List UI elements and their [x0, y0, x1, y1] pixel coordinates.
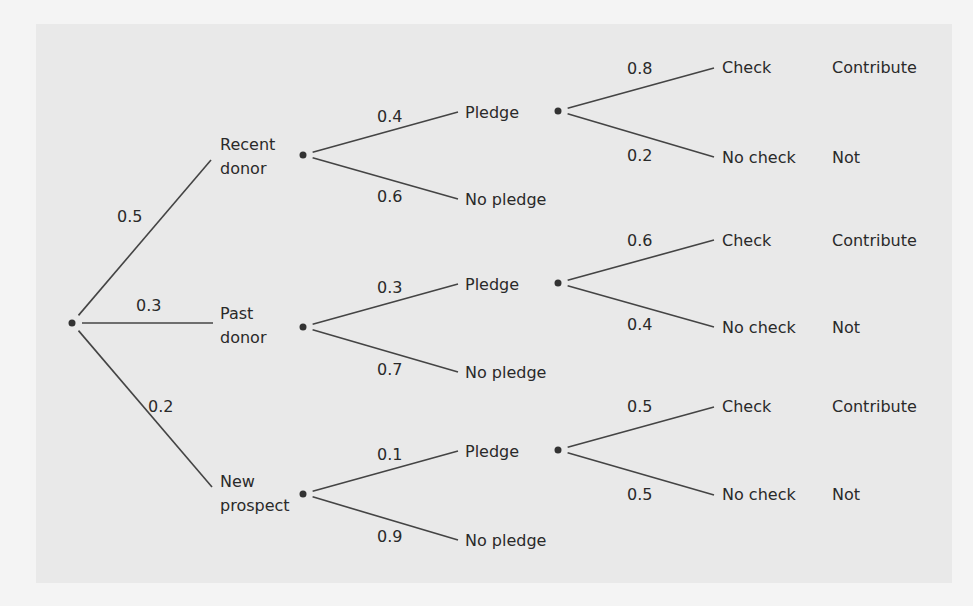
outcome-label: Check [722, 397, 772, 416]
chance-node-dot [300, 324, 307, 331]
result-label: Contribute [832, 397, 917, 416]
node-label: Past [220, 304, 253, 323]
branch-probability: 0.3 [377, 278, 402, 297]
result-label: Not [832, 318, 860, 337]
outcome-label: No pledge [465, 363, 546, 382]
chance-node-dot [300, 491, 307, 498]
branch-probability: 0.8 [627, 59, 652, 78]
root-node-dot [69, 320, 76, 327]
outcome-label: Check [722, 58, 772, 77]
branch-line [78, 331, 212, 487]
node-label: donor [220, 159, 267, 178]
node-label: donor [220, 328, 267, 347]
branch-probability: 0.6 [377, 187, 402, 206]
branch-probability: 0.5 [117, 207, 142, 226]
branch-probability: 0.5 [627, 397, 652, 416]
outcome-label: No check [722, 485, 796, 504]
branch-probability: 0.1 [377, 445, 402, 464]
branch-probability: 0.2 [627, 146, 652, 165]
result-label: Not [832, 485, 860, 504]
branch-probability: 0.5 [627, 485, 652, 504]
branch-line [78, 160, 211, 315]
branch-probability: 0.4 [377, 107, 402, 126]
branch-probability: 0.2 [148, 397, 173, 416]
chance-node-dot [555, 108, 562, 115]
outcome-label: Pledge [465, 275, 519, 294]
branch-probability: 0.9 [377, 527, 402, 546]
chance-node-dot [555, 447, 562, 454]
probability-tree: 0.5Recentdonor0.4Pledge0.6No pledge0.3Pa… [0, 0, 973, 606]
chance-node-dot [555, 280, 562, 287]
outcome-label: No pledge [465, 190, 546, 209]
outcome-label: No check [722, 318, 796, 337]
branch-probability: 0.3 [136, 296, 161, 315]
outcome-label: Pledge [465, 103, 519, 122]
outcome-label: No check [722, 148, 796, 167]
outcome-label: Pledge [465, 442, 519, 461]
node-label: Recent [220, 135, 275, 154]
node-label: New [220, 472, 255, 491]
branch-probability: 0.7 [377, 360, 402, 379]
branch-probability: 0.6 [627, 231, 652, 250]
node-label: prospect [220, 496, 290, 515]
branch-probability: 0.4 [627, 315, 652, 334]
result-label: Contribute [832, 231, 917, 250]
result-label: Not [832, 148, 860, 167]
outcome-label: Check [722, 231, 772, 250]
result-label: Contribute [832, 58, 917, 77]
chance-node-dot [300, 152, 307, 159]
outcome-label: No pledge [465, 531, 546, 550]
